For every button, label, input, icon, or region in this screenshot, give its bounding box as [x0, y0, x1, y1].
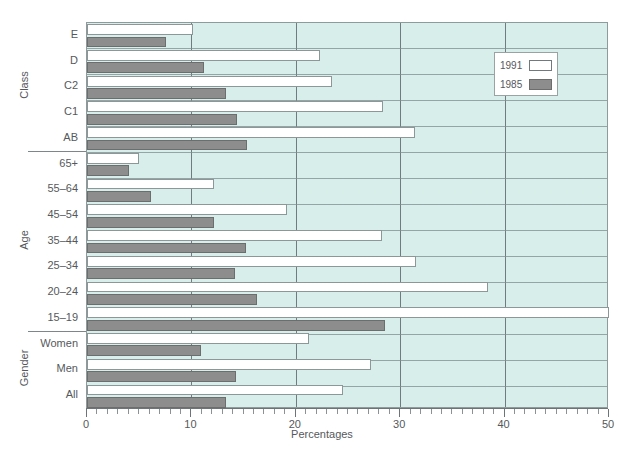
x-tick-minor: [566, 409, 567, 414]
x-tick-minor: [232, 409, 233, 414]
row-separator: [87, 152, 607, 153]
category-label-C2: C2: [0, 79, 78, 91]
bar-1985-45–54: [87, 217, 214, 228]
x-tick-minor: [556, 409, 557, 414]
bar-1985-65+: [87, 165, 129, 176]
x-tick-minor: [305, 409, 306, 414]
group-divider: [28, 331, 86, 332]
category-label-35–44: 35–44: [0, 234, 78, 246]
x-tick-minor: [389, 409, 390, 414]
x-tick-minor: [201, 409, 202, 414]
x-tick-minor: [587, 409, 588, 414]
bar-1985-35–44: [87, 243, 246, 254]
x-tick-minor: [462, 409, 463, 414]
x-tick-minor: [117, 409, 118, 414]
x-tick-minor: [180, 409, 181, 414]
category-label-45–54: 45–54: [0, 208, 78, 220]
x-tick-minor: [472, 409, 473, 414]
bar-1985-AB: [87, 140, 247, 151]
x-tick-minor: [96, 409, 97, 414]
bar-1985-C1: [87, 114, 237, 125]
x-tick-minor: [524, 409, 525, 414]
legend: 1991 1985: [494, 52, 558, 96]
x-tick-major: [399, 409, 400, 417]
x-tick-minor: [514, 409, 515, 414]
bar-1985-C2: [87, 88, 226, 99]
x-tick-minor: [357, 409, 358, 414]
category-label-All: All: [0, 388, 78, 400]
x-tick-minor: [483, 409, 484, 414]
x-tick-minor: [420, 409, 421, 414]
x-tick-minor: [243, 409, 244, 414]
x-tick-minor: [410, 409, 411, 414]
x-tick-minor: [138, 409, 139, 414]
group-label-age: Age: [18, 210, 30, 270]
x-tick-minor: [598, 409, 599, 414]
category-label-15–19: 15–19: [0, 311, 78, 323]
x-tick-minor: [284, 409, 285, 414]
x-tick-minor: [326, 409, 327, 414]
x-tick-minor: [170, 409, 171, 414]
legend-label-1991: 1991: [500, 60, 527, 71]
legend-entry-1985: 1985: [500, 76, 552, 92]
x-tick-minor: [493, 409, 494, 414]
x-tick-minor: [451, 409, 452, 414]
x-tick-minor: [577, 409, 578, 414]
legend-label-1985: 1985: [500, 79, 527, 90]
x-tick-minor: [263, 409, 264, 414]
group-label-gender: Gender: [18, 338, 30, 398]
group-divider: [28, 151, 86, 152]
category-label-Women: Women: [0, 337, 78, 349]
white-swatch-icon: [529, 60, 552, 71]
bar-1991-C1: [87, 101, 383, 112]
bar-1985-Women: [87, 345, 201, 356]
x-tick-major: [608, 409, 609, 417]
bar-1991-D: [87, 50, 320, 61]
x-tick-minor: [128, 409, 129, 414]
x-tick-minor: [149, 409, 150, 414]
grey-swatch-icon: [529, 79, 552, 90]
x-tick-major: [504, 409, 505, 417]
category-label-65+: 65+: [0, 157, 78, 169]
x-tick-minor: [347, 409, 348, 414]
x-tick-minor: [378, 409, 379, 414]
category-label-D: D: [0, 54, 78, 66]
bar-1991-45–54: [87, 204, 287, 215]
bar-1991-35–44: [87, 230, 382, 241]
x-tick-minor: [274, 409, 275, 414]
category-label-C1: C1: [0, 105, 78, 117]
bar-1991-15–19: [87, 307, 609, 318]
x-tick-major: [86, 409, 87, 417]
bar-1991-65+: [87, 153, 139, 164]
bar-1991-Men: [87, 359, 371, 370]
horizontal-bar-chart: EDC2C1AB65+55–6445–5435–4425–3420–2415–1…: [0, 0, 644, 463]
bar-1985-20–24: [87, 294, 257, 305]
category-label-20–24: 20–24: [0, 285, 78, 297]
x-tick-minor: [316, 409, 317, 414]
x-tick-minor: [337, 409, 338, 414]
bar-1991-25–34: [87, 256, 416, 267]
x-axis-title: Percentages: [0, 428, 644, 440]
category-label-25–34: 25–34: [0, 259, 78, 271]
x-tick-minor: [441, 409, 442, 414]
bar-1985-55–64: [87, 191, 151, 202]
bar-1985-D: [87, 62, 204, 73]
bar-1991-Women: [87, 333, 309, 344]
x-tick-major: [190, 409, 191, 417]
x-tick-minor: [222, 409, 223, 414]
legend-entry-1991: 1991: [500, 57, 552, 73]
x-tick-minor: [368, 409, 369, 414]
bar-1985-15–19: [87, 320, 385, 331]
x-tick-minor: [545, 409, 546, 414]
row-separator: [87, 48, 607, 49]
x-tick-minor: [211, 409, 212, 414]
bar-1985-E: [87, 37, 166, 48]
x-tick-minor: [431, 409, 432, 414]
x-tick-minor: [253, 409, 254, 414]
bar-1985-25–34: [87, 268, 235, 279]
bar-1991-AB: [87, 127, 415, 138]
bar-1985-All: [87, 397, 226, 408]
x-tick-minor: [535, 409, 536, 414]
bar-1991-E: [87, 24, 193, 35]
category-label-Men: Men: [0, 362, 78, 374]
